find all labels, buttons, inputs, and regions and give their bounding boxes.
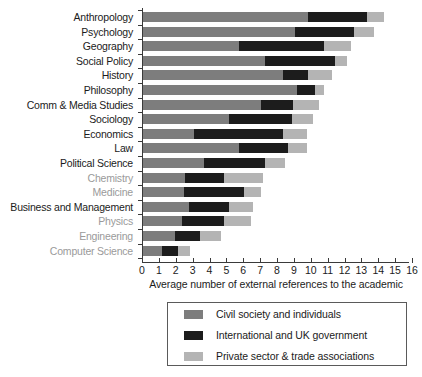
bar-row <box>143 10 413 25</box>
bar-segment <box>244 187 261 197</box>
y-axis-label: Anthropology <box>0 10 138 25</box>
bar-segment <box>200 231 220 241</box>
x-axis-tick-label: 10 <box>305 264 317 276</box>
x-axis-tick <box>159 258 160 263</box>
y-axis-label: Psychology <box>0 25 138 40</box>
x-axis-tick <box>142 258 143 263</box>
x-axis-tick <box>378 258 379 263</box>
bar-segment <box>288 143 307 153</box>
bar-segment <box>143 129 194 139</box>
bar-row <box>143 244 413 259</box>
y-axis-tick <box>138 98 142 99</box>
y-axis-category-labels: AnthropologyPsychologyGeographySocial Po… <box>0 10 138 258</box>
y-axis-label: Business and Management <box>0 200 138 215</box>
bar-segment <box>292 114 314 124</box>
x-axis-tick-label: 12 <box>339 264 351 276</box>
y-axis-tick <box>138 185 142 186</box>
stacked-bar <box>143 12 384 22</box>
y-axis-label: Law <box>0 141 138 156</box>
bar-row <box>143 39 413 54</box>
bar-row <box>143 83 413 98</box>
bar-segment <box>175 231 200 241</box>
stacked-bar <box>143 173 263 183</box>
bar-segment <box>143 231 175 241</box>
bar-row <box>143 54 413 69</box>
y-axis-label: Social Policy <box>0 54 138 69</box>
y-axis-label: Economics <box>0 127 138 142</box>
x-axis-tick-label: 7 <box>257 264 263 276</box>
stacked-bar <box>143 41 351 51</box>
y-axis-tick <box>138 10 142 11</box>
bar-row <box>143 214 413 229</box>
bar-row <box>143 229 413 244</box>
y-axis-label: Engineering <box>0 229 138 244</box>
stacked-bar <box>143 85 324 95</box>
bars-container <box>143 10 413 260</box>
x-axis-tick-label: 13 <box>356 264 368 276</box>
x-axis-tick-label: 0 <box>139 264 145 276</box>
x-axis-tick <box>294 258 295 263</box>
legend-swatch-icon <box>184 352 203 361</box>
bar-row <box>143 156 413 171</box>
bar-segment <box>229 202 253 212</box>
y-axis-tick <box>138 25 142 26</box>
x-axis-tick <box>176 258 177 263</box>
bar-segment <box>224 216 251 226</box>
bar-segment <box>229 114 291 124</box>
bar-row <box>143 171 413 186</box>
y-axis-tick <box>138 68 142 69</box>
bar-segment <box>354 27 374 37</box>
x-axis-ticks <box>142 258 409 263</box>
y-axis-label: Political Science <box>0 156 138 171</box>
stacked-bar <box>143 70 332 80</box>
y-axis-tick <box>138 54 142 55</box>
x-axis-tick <box>395 258 396 263</box>
legend-item: International and UK government <box>168 325 406 345</box>
y-axis-label: Computer Science <box>0 244 138 259</box>
bar-segment <box>143 12 308 22</box>
x-axis-tick-label: 1 <box>156 264 162 276</box>
x-axis-tick-label: 16 <box>406 264 418 276</box>
bar-segment <box>283 70 308 80</box>
x-axis-tick <box>328 258 329 263</box>
x-axis-tick-label: 4 <box>207 264 213 276</box>
legend-item: Private sector & trade associations <box>168 346 406 366</box>
bar-segment <box>308 12 367 22</box>
x-axis-tick-label: 5 <box>223 264 229 276</box>
x-axis-tick <box>345 258 346 263</box>
bar-segment <box>189 202 230 212</box>
y-axis-tick <box>138 127 142 128</box>
bar-segment <box>182 216 224 226</box>
stacked-bar <box>143 187 261 197</box>
x-axis-tick-label: 2 <box>173 264 179 276</box>
bar-segment <box>315 85 323 95</box>
y-axis-tick <box>138 171 142 172</box>
bar-segment <box>239 41 323 51</box>
x-axis-title: Average number of external references to… <box>130 278 422 290</box>
bar-segment <box>184 187 245 197</box>
y-axis-tick <box>138 39 142 40</box>
bar-row <box>143 200 413 215</box>
y-axis-label: History <box>0 68 138 83</box>
y-axis-label: Comm & Media Studies <box>0 98 138 113</box>
bar-segment <box>143 27 295 37</box>
x-axis-tick <box>226 258 227 263</box>
bar-segment <box>265 56 336 66</box>
x-axis-tick <box>193 258 194 263</box>
bar-segment <box>143 173 185 183</box>
stacked-bar <box>143 202 253 212</box>
y-axis-label: Geography <box>0 39 138 54</box>
y-axis-label: Chemistry <box>0 171 138 186</box>
bar-segment <box>194 129 283 139</box>
bar-segment <box>143 246 162 256</box>
y-axis-tick <box>138 200 142 201</box>
bar-segment <box>143 114 229 124</box>
x-axis-tick <box>260 258 261 263</box>
bar-segment <box>295 27 354 37</box>
y-axis-tick <box>138 83 142 84</box>
bar-row <box>143 127 413 142</box>
bar-segment <box>162 246 179 256</box>
stacked-bar <box>143 129 307 139</box>
bar-segment <box>239 143 288 153</box>
stacked-bar <box>143 100 319 110</box>
